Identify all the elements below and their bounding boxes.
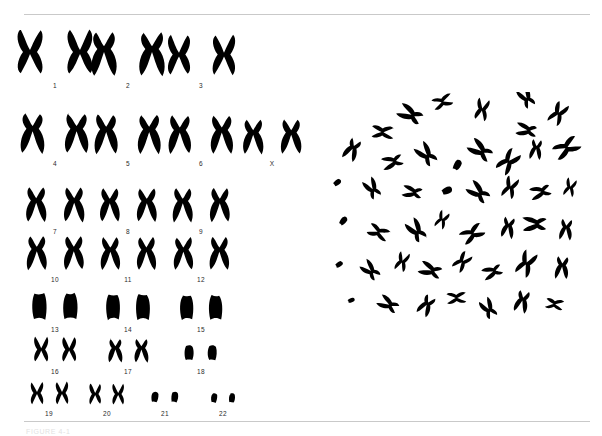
spread-chromosome [501, 175, 520, 200]
chromosome-pair-20: 20 [80, 376, 134, 426]
chromosome-21-1 [147, 386, 163, 406]
chromosome-13-2 [58, 291, 83, 322]
spread-chromosome [333, 178, 343, 188]
spread-chromosome [376, 293, 401, 314]
spread-canvas [330, 92, 602, 350]
chromosome-pair-1: 1 [22, 20, 88, 98]
chromosome-13-1 [27, 291, 52, 322]
spread-chromosome [545, 298, 565, 311]
spread-chromosome [403, 216, 428, 244]
chromosome-pair-3: 3 [168, 20, 234, 98]
spread-chromosome [529, 139, 543, 160]
spread-chromosome [513, 289, 531, 314]
chromosome-5-2 [132, 113, 166, 156]
chromosome-14-1 [101, 292, 125, 322]
chromosome-X-1 [238, 118, 268, 156]
spread-chromosome [515, 122, 538, 138]
chromosome-12-2 [205, 236, 234, 272]
chromosome-12-1 [169, 236, 198, 272]
karyotype-panel: 123456X78910111213141516171819202122 [0, 0, 330, 420]
chromosome-15-2 [204, 293, 227, 322]
chromosome-label-18: 18 [168, 368, 234, 375]
spread-chromosome [452, 159, 462, 171]
spread-chromosome [366, 222, 391, 242]
spread-chromosome [431, 93, 454, 111]
spread-chromosome [551, 134, 582, 161]
chromosome-7-2 [59, 186, 89, 224]
chromosome-7-1 [21, 186, 51, 224]
chromosome-10-1 [22, 235, 52, 272]
spread-chromosome [380, 153, 404, 171]
spread-chromosome [465, 179, 492, 205]
figure-caption: FIGURE 4-1 [26, 428, 71, 435]
chromosome-X-2 [276, 118, 306, 156]
chromosome-pair-19: 19 [22, 376, 76, 426]
spread-chromosome [417, 260, 443, 280]
spread-chromosome [500, 216, 516, 239]
karyotype-row: 101112 [0, 230, 330, 292]
chromosome-label-5: 5 [95, 160, 161, 167]
chromosome-6-2 [205, 114, 239, 156]
chromosome-label-11: 11 [95, 276, 161, 283]
chromosome-14-2 [131, 292, 155, 322]
spread-chromosome [441, 185, 454, 197]
spread-chromosome [338, 215, 348, 226]
chromosome-label-16: 16 [22, 368, 88, 375]
chromosome-22-1 [207, 388, 221, 406]
spread-chromosome [401, 185, 423, 200]
chromosome-17-2 [131, 338, 152, 364]
spread-chromosome [451, 250, 473, 274]
karyotype-row: 456X [0, 108, 330, 176]
spread-chromosome [341, 137, 363, 163]
chromosome-pair-22: 22 [196, 376, 250, 426]
spread-chromosome [358, 258, 382, 282]
chromosome-8-2 [132, 187, 162, 224]
spread-chromosome [522, 217, 546, 231]
chromosome-4-1 [15, 112, 50, 156]
chromosome-label-1: 1 [22, 82, 88, 89]
spread-chromosome [335, 260, 344, 269]
spread-chromosome [554, 256, 569, 280]
spread-chromosome [416, 293, 437, 317]
chromosome-5-1 [89, 113, 123, 156]
chromosome-label-19: 19 [22, 410, 76, 417]
chromosome-6-1 [163, 114, 197, 156]
chromosome-16-2 [58, 336, 80, 364]
spread-chromosome [547, 100, 570, 127]
karyotype-row: 19202122 [0, 376, 330, 426]
chromosome-8-1 [95, 187, 125, 224]
chromosome-label-12: 12 [168, 276, 234, 283]
spread-chromosome [413, 140, 439, 168]
chromosome-pair-21: 21 [138, 376, 192, 426]
spread-chromosome [394, 250, 411, 272]
chromosome-pair-10: 10 [22, 230, 88, 292]
chromosome-9-2 [205, 187, 235, 224]
chromosome-19-2 [52, 381, 72, 406]
chromosome-pair-X: X [241, 108, 303, 176]
chromosome-label-3: 3 [168, 82, 234, 89]
chromosome-pair-12: 12 [168, 230, 234, 292]
chromosome-label-6: 6 [168, 160, 234, 167]
chromosome-3-2 [206, 33, 242, 78]
chromosome-pair-5: 5 [95, 108, 161, 176]
karyotype-row: 123 [0, 20, 330, 98]
chromosome-16-1 [30, 336, 52, 364]
chromosome-label-22: 22 [196, 410, 250, 417]
spread-chromosome [474, 97, 491, 121]
chromosome-label-2: 2 [95, 82, 161, 89]
chromosome-label-17: 17 [95, 368, 161, 375]
metaphase-spread-panel [330, 92, 602, 350]
chromosome-label-4: 4 [22, 160, 88, 167]
spread-chromosome [446, 292, 466, 305]
spread-chromosome [361, 176, 382, 201]
chromosome-pair-6: 6 [168, 108, 234, 176]
spread-chromosome [515, 92, 537, 110]
spread-chromosome [514, 249, 538, 279]
chromosome-18-1 [180, 341, 198, 364]
chromosome-20-1 [86, 383, 104, 406]
spread-chromosome [371, 125, 394, 139]
figure-plate: 123456X78910111213141516171819202122 FIG… [0, 0, 602, 436]
chromosome-pair-4: 4 [22, 108, 88, 176]
chromosome-label-21: 21 [138, 410, 192, 417]
chromosome-17-1 [105, 338, 126, 364]
